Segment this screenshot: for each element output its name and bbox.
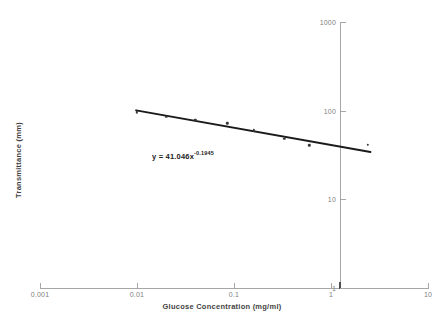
trendline-equation-label: y = 41.046x-0.1945: [152, 150, 214, 161]
trendline-segment: [136, 110, 370, 152]
y-axis-title: Transmittance (mm): [14, 105, 23, 215]
x-axis-title: Glucose Concentration (mg/ml): [0, 302, 444, 311]
equation-exponent: -0.1945: [194, 150, 214, 156]
trendline: [0, 0, 444, 326]
chart-container: 0.0010.010.1110 1000100101 y = 41.046x-0…: [0, 0, 444, 326]
equation-base: y = 41.046x: [152, 152, 194, 161]
